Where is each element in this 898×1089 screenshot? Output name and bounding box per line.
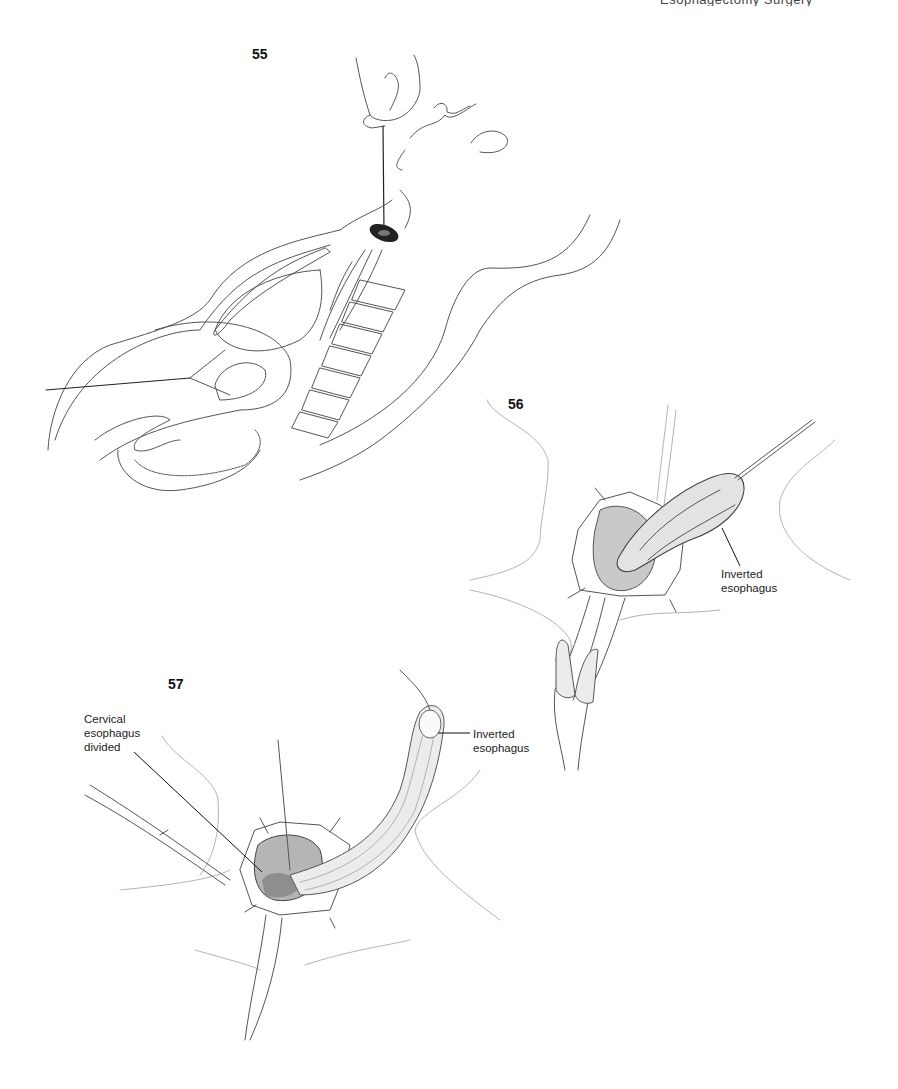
figure-57: 57 Cervical esophagus divided Inverted e…	[0, 0, 898, 1089]
neck-division-illustration	[0, 0, 898, 1089]
